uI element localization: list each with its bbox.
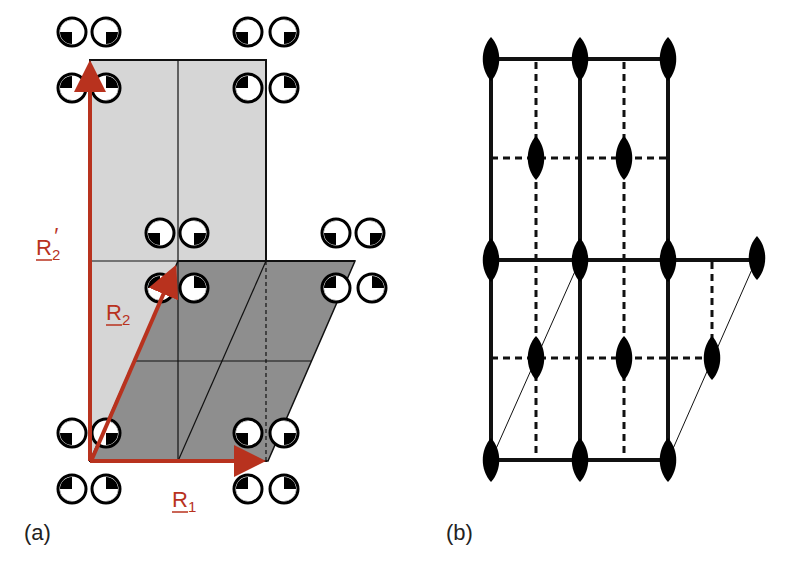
twofold-axis-icon: [483, 37, 500, 81]
twofold-axis-icon: [483, 238, 500, 282]
twofold-axis-icon: [616, 336, 633, 380]
twofold-axis-icon: [572, 238, 589, 282]
motif-circle-icon: [92, 74, 120, 102]
motif-circle-icon: [58, 74, 86, 102]
motif-circle-icon: [270, 74, 298, 102]
motif-circle-icon: [58, 18, 86, 46]
motif-circle-icon: [322, 274, 350, 302]
motif-circle-icon: [358, 274, 386, 302]
twofold-axis-icon: [749, 236, 766, 280]
motif-circle-icon: [92, 18, 120, 46]
motif-circle-icon: [180, 274, 208, 302]
twofold-axis-icon: [660, 37, 677, 81]
motif-circle-icon: [270, 475, 298, 503]
vector-r1-label: R1: [172, 487, 196, 515]
twofold-axis-icon: [572, 438, 589, 482]
motif-circle-icon: [180, 219, 208, 247]
panel-a: R2′ R2 R1 (a): [24, 18, 386, 545]
motif-circle-icon: [356, 219, 384, 247]
motif-circle-icon: [146, 219, 174, 247]
twofold-axis-icon: [483, 438, 500, 482]
motif-circle-icon: [58, 419, 86, 447]
motif-circle-icon: [270, 419, 298, 447]
twofold-axis-icon: [528, 336, 545, 380]
twofold-axis-icon: [616, 136, 633, 180]
motif-circle-icon: [234, 18, 262, 46]
motif-circle-icon: [322, 219, 350, 247]
twofold-axis-icon: [660, 438, 677, 482]
twofold-axis-icon: [528, 136, 545, 180]
panel-a-label: (a): [24, 520, 51, 545]
figure-canvas: R2′ R2 R1 (a): [0, 0, 790, 576]
twofold-axis-icon: [660, 238, 677, 282]
panel-b-label: (b): [446, 520, 473, 545]
motif-circle-icon: [92, 475, 120, 503]
motif-circle-icon: [58, 475, 86, 503]
motif-circle-icon: [234, 74, 262, 102]
motif-circle-icon: [270, 18, 298, 46]
motif-circle-icon: [234, 419, 262, 447]
vector-r2prime-label: R2′: [36, 223, 60, 263]
motif-circle-icon: [234, 475, 262, 503]
twofold-axis-icon: [572, 37, 589, 81]
panel-b: (b): [446, 37, 765, 545]
